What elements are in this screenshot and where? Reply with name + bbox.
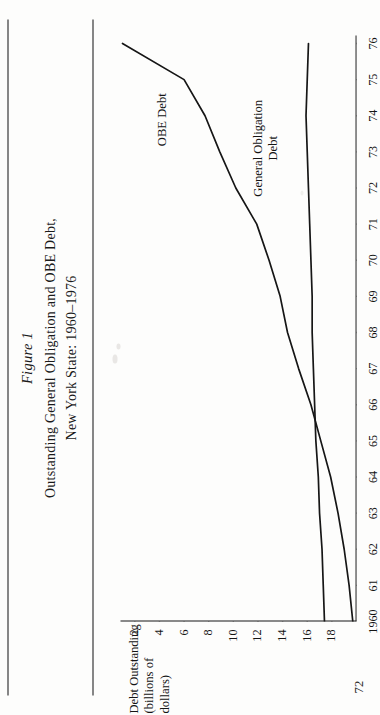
- x-axis-tick-label: 65: [365, 434, 380, 446]
- x-axis-tick-label: 76: [365, 37, 380, 49]
- x-axis-tick-label: 73: [365, 145, 380, 157]
- y-axis-tick-label: 2: [127, 629, 142, 655]
- x-axis-tick-label: 69: [365, 290, 380, 302]
- scan-speckle: [116, 343, 120, 349]
- x-axis-tick-label: 61: [365, 579, 380, 591]
- x-axis-tick-label: 74: [365, 109, 380, 121]
- y-axis-tick-label: 18: [324, 629, 339, 655]
- y-axis-tick-label: 6: [176, 629, 191, 655]
- figure-number: Figure 1: [18, 0, 35, 715]
- x-axis-tick-label: 67: [365, 362, 380, 374]
- y-axis-tick-label: 16: [299, 629, 314, 655]
- x-axis-tick-label: 63: [365, 507, 380, 519]
- page-rule-top: [7, 19, 8, 695]
- y-axis-tick-label: 8: [201, 629, 216, 655]
- x-axis-tick-label: 75: [365, 73, 380, 85]
- x-axis-tick-label: 62: [365, 543, 380, 555]
- y-axis-tick-label: 12: [250, 629, 265, 655]
- series-label-obe-debt: OBE Debt: [154, 93, 169, 146]
- series-label-general-obligation-debt: General Obligation Debt: [250, 96, 280, 200]
- figure-title-line-2: New York State: 1960–1976: [63, 0, 79, 715]
- series-label-go-line-2: Debt: [265, 96, 280, 200]
- x-axis-tick-label: 68: [365, 326, 380, 338]
- x-axis-tick-label: 71: [365, 218, 380, 230]
- series-label-go-line-1: General Obligation: [250, 96, 265, 200]
- scan-speckle: [300, 190, 303, 195]
- x-axis-tick-label: 66: [365, 398, 380, 410]
- page-folio: 72: [351, 680, 366, 693]
- x-axis-tick-label: 72: [365, 181, 380, 193]
- scanned-page-canvas: 72 Figure 1 Outstanding General Obligati…: [0, 0, 380, 715]
- scan-speckle: [112, 354, 117, 363]
- x-axis-tick-label: 64: [365, 470, 380, 482]
- figure-title-line-1: Outstanding General Obligation and OBE D…: [42, 0, 58, 715]
- x-axis-tick-label: 70: [365, 254, 380, 266]
- figure-page: 72 Figure 1 Outstanding General Obligati…: [0, 0, 380, 715]
- y-axis-tick-label: 14: [275, 629, 290, 655]
- x-axis-tick-label: 1960: [365, 609, 380, 633]
- y-axis-tick-label: 10: [225, 629, 240, 655]
- page-rule-second: [92, 19, 93, 695]
- series-line-general-obligation-debt: [306, 43, 324, 621]
- y-axis-tick-label: 4: [151, 629, 166, 655]
